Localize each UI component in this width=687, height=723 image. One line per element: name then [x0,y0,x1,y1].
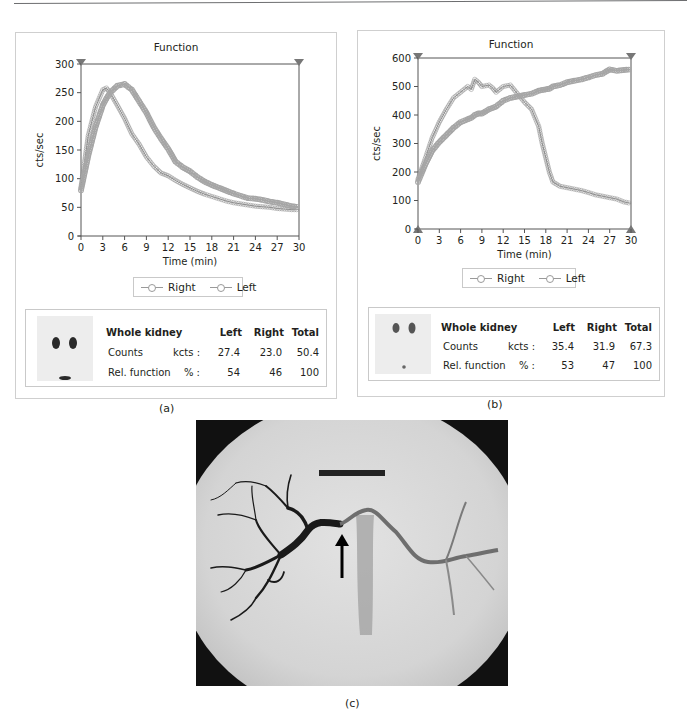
svg-text:600: 600 [392,53,411,64]
legend-item-left: Left [539,272,586,284]
cell-value: 35.4 [541,341,574,352]
svg-text:3: 3 [436,235,442,246]
legend-label: Right [168,281,196,293]
row-unit: kcts : [166,347,200,358]
column-header-total: Total [286,327,319,338]
row-unit: % : [499,360,535,371]
renogram-panel-b: Function 0369121518212427300100200300400… [357,30,665,397]
svg-text:500: 500 [392,81,411,92]
series-line-left [81,84,299,207]
table-header: Whole kidney [441,322,517,333]
row-label: Rel. function [443,360,506,371]
cell-value: 47 [579,360,615,371]
svg-text:27: 27 [271,242,284,253]
renogram-panel-a: Function 0369121518212427300501001502002… [15,32,337,399]
svg-text:200: 200 [55,116,74,127]
range-marker-icon [413,53,423,60]
cell-value: 100 [619,360,652,371]
svg-text:15: 15 [184,242,197,253]
cell-value: 100 [286,367,319,378]
svg-text:0: 0 [405,224,411,235]
svg-text:250: 250 [55,87,74,98]
svg-text:12: 12 [162,242,175,253]
cell-value: 23.0 [246,347,282,358]
svg-text:30: 30 [625,235,638,246]
svg-text:cts/sec: cts/sec [34,133,45,168]
cell-value: 53 [541,360,574,371]
summary-table: Whole kidney Left Right Total Counts kct… [25,309,327,387]
svg-text:0: 0 [415,235,421,246]
cell-value: 67.3 [619,341,652,352]
legend-label: Right [497,272,525,284]
summary-values: Whole kidney Left Right Total Counts kct… [106,310,321,386]
renogram-chart-b: 0369121518212427300100200300400500600Tim… [358,31,664,271]
svg-text:0: 0 [68,231,74,242]
svg-text:150: 150 [55,145,74,156]
svg-text:18: 18 [205,242,218,253]
table-header: Whole kidney [106,327,182,338]
legend-line-marker-icon [141,283,163,291]
caption-c: (c) [345,697,360,710]
legend-label: Left [566,272,586,284]
svg-text:3: 3 [100,242,106,253]
svg-text:15: 15 [518,235,531,246]
svg-text:6: 6 [121,242,127,253]
cell-value: 31.9 [579,341,615,352]
svg-text:cts/sec: cts/sec [371,126,382,161]
svg-text:400: 400 [392,110,411,121]
legend-line-marker-icon [539,274,561,282]
svg-text:21: 21 [227,242,240,253]
kidney-scan-image [37,316,93,381]
row-label: Counts [108,347,143,358]
row-label: Rel. function [108,367,171,378]
svg-text:50: 50 [61,202,74,213]
series-line-left [418,69,631,182]
caption-b: (b) [487,398,503,411]
row-unit: % : [166,367,200,378]
svg-text:300: 300 [392,138,411,149]
svg-text:24: 24 [249,242,262,253]
column-header-right: Right [579,322,617,333]
column-header-left: Left [541,322,575,333]
kidney-scan-image [375,314,431,374]
svg-text:18: 18 [539,235,552,246]
cell-value: 46 [246,367,282,378]
column-header-right: Right [246,327,284,338]
svg-text:100: 100 [392,195,411,206]
column-header-total: Total [619,322,652,333]
legend-line-marker-icon [470,274,492,282]
page-rule [14,0,687,4]
cell-value: 27.4 [206,347,240,358]
series-line-right [81,88,299,210]
svg-text:300: 300 [55,59,74,70]
svg-text:Time (min): Time (min) [162,256,217,267]
summary-values: Whole kidney Left Right Total Counts kct… [441,308,653,380]
svg-text:9: 9 [143,242,149,253]
caption-a: (a) [159,402,174,415]
range-marker-icon [294,59,304,66]
svg-text:Time (min): Time (min) [496,249,551,260]
svg-text:21: 21 [561,235,574,246]
legend-item-left: Left [210,281,257,293]
svg-text:6: 6 [457,235,463,246]
svg-text:200: 200 [392,167,411,178]
legend-item-right: Right [470,272,525,284]
legend-label: Left [237,281,257,293]
svg-text:30: 30 [293,242,306,253]
svg-text:100: 100 [55,173,74,184]
svg-text:0: 0 [78,242,84,253]
legend-item-right: Right [141,281,196,293]
svg-text:24: 24 [582,235,595,246]
row-label: Counts [443,341,478,352]
chart-legend: Right Left [462,268,576,288]
range-marker-icon [76,59,86,66]
chart-legend: Right Left [133,277,243,297]
row-unit: kcts : [499,341,535,352]
range-marker-icon [626,53,636,60]
svg-text:27: 27 [603,235,616,246]
svg-text:9: 9 [479,235,485,246]
renal-angiogram-image [196,420,508,686]
cell-value: 50.4 [286,347,319,358]
cell-value: 54 [206,367,240,378]
column-header-left: Left [206,327,242,338]
